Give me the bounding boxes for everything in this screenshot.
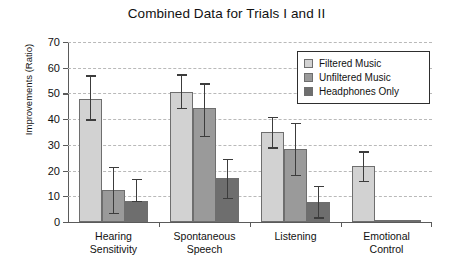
y-tick-label: 10 bbox=[48, 190, 60, 202]
error-bar-stem bbox=[181, 74, 182, 107]
legend-swatch-icon bbox=[304, 87, 313, 96]
gridline bbox=[68, 42, 432, 43]
x-category-label-line: Listening bbox=[250, 230, 341, 243]
x-category-label-line: Sensitivity bbox=[68, 243, 159, 256]
legend-label: Filtered Music bbox=[319, 58, 381, 69]
error-bar-stem bbox=[363, 151, 364, 181]
y-tick-mark bbox=[63, 119, 68, 120]
y-tick-label: 0 bbox=[54, 216, 60, 228]
bar-chart: Combined Data for Trials I and II Improv… bbox=[0, 0, 453, 264]
x-category-label-line: Emotional bbox=[341, 230, 432, 243]
error-bar-cap-lower bbox=[109, 213, 119, 214]
x-category-label: EmotionalControl bbox=[341, 230, 432, 255]
y-tick-mark bbox=[63, 171, 68, 172]
error-bar-cap-upper bbox=[314, 186, 324, 187]
x-category-label: SpontaneousSpeech bbox=[159, 230, 250, 255]
error-bar-cap-upper bbox=[177, 74, 187, 75]
x-category-label: HearingSensitivity bbox=[68, 230, 159, 255]
x-category-label: Listening bbox=[250, 230, 341, 243]
x-tick-mark bbox=[159, 222, 160, 227]
error-bar-stem bbox=[272, 117, 273, 148]
error-bar-cap-lower bbox=[200, 136, 210, 137]
error-bar-cap-upper bbox=[268, 117, 278, 118]
x-tick-mark bbox=[431, 222, 432, 227]
gridline bbox=[68, 119, 432, 120]
legend-swatch-icon bbox=[304, 73, 313, 82]
x-category-label-line: Control bbox=[341, 243, 432, 256]
y-tick-mark bbox=[63, 222, 68, 223]
error-bar-cap-upper bbox=[132, 179, 142, 180]
error-bar-cap-lower bbox=[177, 108, 187, 109]
error-bar-cap-upper bbox=[291, 123, 301, 124]
x-category-label-line: Speech bbox=[159, 243, 250, 256]
y-tick-mark bbox=[63, 93, 68, 94]
error-bar-cap-upper bbox=[109, 167, 119, 168]
y-axis-line bbox=[68, 42, 69, 222]
legend-item: Filtered Music bbox=[304, 56, 423, 70]
legend-label: Unfiltered Music bbox=[319, 72, 391, 83]
x-tick-mark bbox=[341, 222, 342, 227]
error-bar-cap-upper bbox=[86, 75, 96, 76]
error-bar-cap-lower bbox=[132, 201, 142, 202]
y-tick-mark bbox=[63, 42, 68, 43]
y-tick-label: 60 bbox=[48, 62, 60, 74]
y-tick-label: 40 bbox=[48, 113, 60, 125]
y-tick-label: 20 bbox=[48, 165, 60, 177]
error-bar-cap-upper bbox=[200, 83, 210, 84]
y-tick-label: 70 bbox=[48, 36, 60, 48]
chart-title: Combined Data for Trials I and II bbox=[0, 6, 453, 21]
gridline bbox=[68, 171, 432, 172]
x-tick-mark bbox=[250, 222, 251, 227]
error-bar-stem bbox=[204, 83, 205, 136]
error-bar-cap-lower bbox=[268, 147, 278, 148]
legend-swatch-icon bbox=[304, 59, 313, 68]
error-bar-cap-lower bbox=[291, 175, 301, 176]
error-bar-cap-lower bbox=[359, 181, 369, 182]
bar bbox=[398, 220, 421, 222]
error-bar-cap-lower bbox=[223, 198, 233, 199]
error-bar-stem bbox=[295, 123, 296, 175]
y-tick-mark bbox=[63, 68, 68, 69]
y-axis-title: Improvements (Ratio) bbox=[23, 10, 34, 170]
bar bbox=[375, 220, 398, 222]
chart-legend: Filtered MusicUnfiltered MusicHeadphones… bbox=[297, 51, 430, 104]
error-bar-stem bbox=[113, 167, 114, 213]
error-bar-stem bbox=[318, 186, 319, 217]
error-bar-cap-lower bbox=[86, 119, 96, 120]
bar bbox=[125, 201, 148, 222]
error-bar-stem bbox=[136, 179, 137, 201]
error-bar-cap-upper bbox=[359, 151, 369, 152]
y-tick-mark bbox=[63, 145, 68, 146]
y-tick-mark bbox=[63, 196, 68, 197]
error-bar-cap-upper bbox=[223, 159, 233, 160]
y-tick-label: 30 bbox=[48, 139, 60, 151]
error-bar-stem bbox=[90, 75, 91, 119]
x-category-label-line: Spontaneous bbox=[159, 230, 250, 243]
y-tick-label: 50 bbox=[48, 87, 60, 99]
error-bar-cap-lower bbox=[314, 217, 324, 218]
legend-label: Headphones Only bbox=[319, 86, 399, 97]
x-category-label-line: Hearing bbox=[68, 230, 159, 243]
legend-item: Headphones Only bbox=[304, 84, 423, 98]
legend-item: Unfiltered Music bbox=[304, 70, 423, 84]
error-bar-stem bbox=[227, 159, 228, 198]
bar bbox=[170, 92, 193, 222]
gridline bbox=[68, 145, 432, 146]
